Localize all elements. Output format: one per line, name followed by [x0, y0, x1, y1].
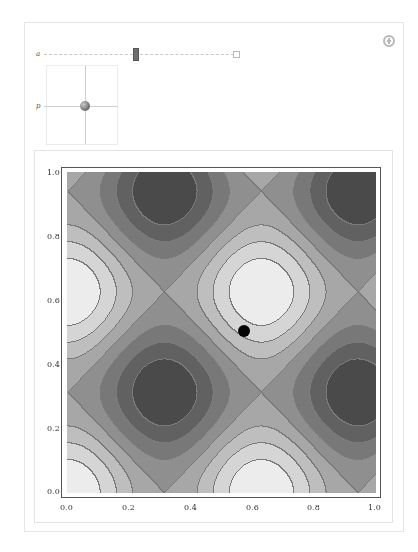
x-tick-label: 0.0 — [60, 503, 73, 512]
plus-circle-icon[interactable] — [383, 35, 395, 47]
draggable-point[interactable] — [238, 325, 250, 337]
x-tick-label: 0.4 — [184, 503, 197, 512]
y-tick-label: 0.8 — [47, 232, 60, 241]
slider-a-track[interactable] — [44, 54, 234, 55]
y-tick-label: 1.0 — [47, 168, 60, 177]
y-tick-label: 0.2 — [47, 424, 60, 433]
x-tick-label: 1.0 — [368, 503, 381, 512]
slider-a-label: a — [36, 50, 40, 58]
slider-a-options-button[interactable] — [233, 51, 240, 58]
locator-p-label: p — [36, 102, 40, 110]
y-tick-label: 0.4 — [47, 360, 60, 369]
x-tick-label: 0.6 — [246, 503, 259, 512]
y-tick-label: 0.0 — [47, 487, 60, 496]
plot-frame — [61, 167, 381, 498]
locator-p-handle[interactable] — [80, 101, 90, 111]
y-tick-label: 0.6 — [47, 296, 60, 305]
x-tick-label: 0.8 — [307, 503, 320, 512]
slider-a-thumb[interactable] — [133, 48, 139, 61]
x-tick-label: 0.2 — [122, 503, 135, 512]
